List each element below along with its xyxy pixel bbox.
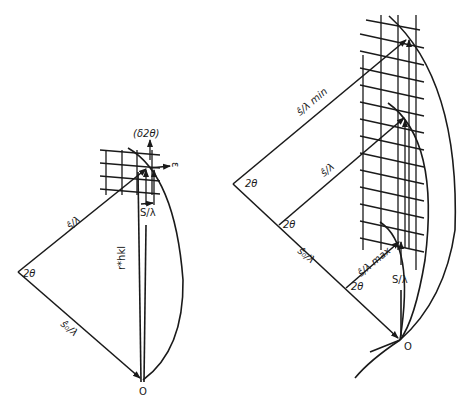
left-diffracted-label: ŝ/λ [64, 214, 82, 232]
left-diagram: 2θ ŝ₀/λ ŝ/λ S/λ r*hkl (δ2θ) ε O [18, 128, 183, 397]
right-angle-label-3: 2θ [351, 281, 363, 292]
right-origin-label: O [404, 341, 412, 352]
right-diffracted-min-label: ŝ/λ min [294, 86, 329, 118]
left-reciprocal-lattice-grid [100, 150, 160, 195]
left-incident-vector [18, 272, 140, 378]
left-bracket-label: (δ2θ) [133, 128, 159, 139]
left-incident-label: ŝ₀/λ [59, 318, 80, 338]
right-scatter-label: S/λ [392, 274, 408, 285]
right-diffracted-label: ŝ/λ [318, 161, 336, 179]
left-scatter-label: S/λ [140, 207, 156, 218]
left-reciprocal-label: r*hkl [116, 246, 127, 270]
ewald-sphere-diagram: 2θ ŝ₀/λ ŝ/λ S/λ r*hkl (δ2θ) ε O [0, 0, 474, 406]
left-epsilon-label: ε [170, 162, 181, 167]
right-ewald-arc-mid [388, 103, 428, 340]
right-reciprocal-lattice-grid [360, 15, 424, 270]
right-incident-label: ŝ₀/λ [296, 245, 317, 265]
right-diagram: 2θ 2θ 2θ ŝ₀/λ ŝ/λ min ŝ/λ ŝ/λ max S/λ O [233, 15, 455, 378]
left-angle-label: 2θ [23, 268, 35, 279]
right-diffracted-min-vector [233, 40, 406, 184]
left-ewald-arc [128, 148, 183, 380]
left-reciprocal-vector [138, 172, 141, 382]
left-scatter-vector [144, 225, 146, 382]
right-diffracted-max-label: ŝ/λ max [355, 245, 392, 279]
right-angle-label-1: 2θ [245, 178, 257, 189]
left-origin-label: O [139, 386, 147, 397]
right-angle-label-2: 2θ [283, 219, 295, 230]
